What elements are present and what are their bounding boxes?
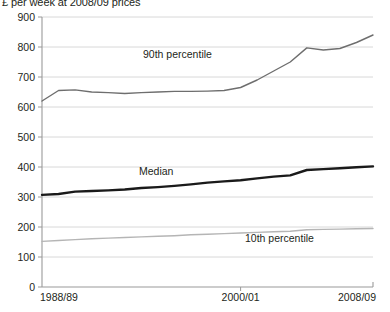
x-tick-label: 2008/09 <box>338 291 376 303</box>
data-series-group <box>42 35 373 241</box>
x-tick-label: 1988/89 <box>40 291 78 303</box>
series-line-median <box>42 166 373 195</box>
y-tick-label: 300 <box>17 191 35 203</box>
series-line-10th-percentile <box>42 229 373 242</box>
series-label-10th-percentile: 10th percentile <box>245 232 314 244</box>
y-tick-label: 0 <box>29 281 35 293</box>
y-tick-label: 500 <box>17 131 35 143</box>
series-label-median: Median <box>139 165 174 177</box>
y-tick-label: 700 <box>17 71 35 83</box>
line-chart-plot: 0100200300400500600700800900 1988/892000… <box>0 0 390 312</box>
y-tick-label: 100 <box>17 251 35 263</box>
y-tick-label: 900 <box>17 11 35 23</box>
x-axis-tick-labels: 1988/892000/012008/09 <box>40 291 376 303</box>
y-tick-label: 800 <box>17 41 35 53</box>
y-tick-label: 200 <box>17 221 35 233</box>
x-tick-label: 2000/01 <box>222 291 260 303</box>
chart-container: £ per week at 2008/09 prices 01002003004… <box>0 0 390 312</box>
series-label-90th-percentile: 90th percentile <box>143 48 212 60</box>
y-axis-tick-labels: 0100200300400500600700800900 <box>17 11 35 293</box>
y-tick-label: 400 <box>17 161 35 173</box>
series-line-90th-percentile <box>42 35 373 101</box>
y-tick-label: 600 <box>17 101 35 113</box>
